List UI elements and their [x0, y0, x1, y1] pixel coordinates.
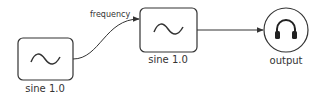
node-sine-1[interactable]	[18, 38, 73, 80]
node-sine-2[interactable]	[140, 8, 197, 52]
edge-frequency[interactable]	[73, 19, 139, 59]
node-label-output: output	[270, 55, 303, 66]
node-label-sine-1: sine 1.0	[25, 83, 65, 94]
node-output[interactable]	[264, 8, 308, 52]
edge-label-frequency: frequency	[90, 10, 130, 19]
node-label-sine-2: sine 1.0	[148, 54, 188, 65]
